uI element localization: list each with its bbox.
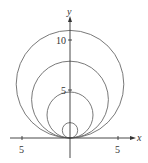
axes [10,20,132,158]
polar-circles-plot: x y 5 5 10 5 [0,0,148,163]
x-axis-label: x [136,132,142,143]
x-axis-arrow-icon [130,136,136,140]
x-tick-label-right: 5 [115,144,120,155]
x-tick-label-left: 5 [19,144,24,155]
y-tick-label-5: 5 [61,85,66,96]
y-tick-label-10: 10 [56,35,66,46]
y-axis-label: y [66,6,72,17]
